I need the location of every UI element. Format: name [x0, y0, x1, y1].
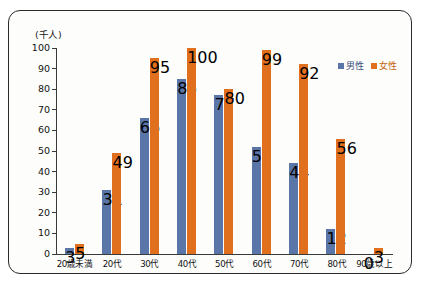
plot-area: 0102030405060708090100 35314966958510077… — [56, 48, 392, 254]
bar-female: 3 — [374, 248, 383, 254]
bar-female: 5 — [75, 244, 84, 254]
bar-group: 7780 — [205, 48, 242, 254]
x-axis-label: 50代 — [206, 257, 243, 269]
bar-group: 35 — [56, 48, 93, 254]
chart-frame: (千人) 0102030405060708090100 353149669585… — [8, 10, 412, 274]
y-axis-unit-label: (千人) — [35, 27, 62, 41]
legend-item: 女性 — [371, 59, 397, 72]
legend-swatch-icon — [371, 63, 377, 69]
bar-male: 77 — [214, 95, 223, 254]
y-axis-tick-label: 100 — [32, 42, 50, 53]
bar-male: 12 — [326, 229, 335, 254]
bar-group: 5299 — [243, 48, 280, 254]
bar-group: 85100 — [168, 48, 205, 254]
x-axis-label: 70代 — [281, 257, 318, 269]
bar-female: 49 — [112, 153, 121, 254]
bar-male: 44 — [289, 163, 298, 254]
bar-male: 3 — [65, 248, 74, 254]
x-axis-label: 60代 — [243, 257, 280, 269]
bar-group: 03 — [355, 48, 392, 254]
x-axis-label: 20代 — [93, 257, 130, 269]
y-axis-tick-label: 40 — [38, 166, 50, 177]
x-axis-label: 80代 — [318, 257, 355, 269]
x-axis-line — [56, 254, 393, 255]
bar-female: 99 — [262, 50, 271, 254]
bar-groups: 353149669585100778052994492125603 — [56, 48, 392, 254]
bar-male: 52 — [252, 147, 261, 254]
x-axis-label: 40代 — [168, 257, 205, 269]
x-axis-label: 30代 — [131, 257, 168, 269]
legend-item: 男性 — [338, 59, 364, 72]
x-axis-label: 20歳未満 — [56, 257, 93, 269]
bar-female: 80 — [224, 89, 233, 254]
y-axis-tick-label: 80 — [38, 83, 50, 94]
y-axis-tick-label: 60 — [38, 124, 50, 135]
y-axis-tick-label: 0 — [44, 248, 50, 259]
bar-male: 85 — [177, 79, 186, 254]
y-axis-tick-label: 20 — [38, 207, 50, 218]
x-axis-labels: 20歳未満20代30代40代50代60代70代80代90歳以上 — [56, 257, 393, 269]
y-axis-tick-label: 90 — [38, 63, 50, 74]
bar-male: 66 — [140, 118, 149, 254]
bar-female: 56 — [336, 139, 345, 254]
bar-female: 95 — [150, 58, 159, 254]
bar-female: 92 — [299, 64, 308, 254]
y-axis-tick-label: 70 — [38, 104, 50, 115]
legend-swatch-icon — [338, 63, 344, 69]
chart-legend: 男性女性 — [338, 59, 397, 72]
bar-group: 1256 — [317, 48, 354, 254]
bar-male: 31 — [102, 190, 111, 254]
bar-group: 6695 — [131, 48, 168, 254]
legend-label: 女性 — [379, 59, 397, 72]
y-axis-tick-label: 30 — [38, 186, 50, 197]
y-axis-tick-label: 10 — [38, 227, 50, 238]
legend-label: 男性 — [346, 59, 364, 72]
x-axis-label: 90歳以上 — [356, 257, 393, 269]
bar-group: 4492 — [280, 48, 317, 254]
bar-female: 100 — [187, 48, 196, 254]
bar-group: 3149 — [93, 48, 130, 254]
y-axis-tick-label: 50 — [38, 145, 50, 156]
